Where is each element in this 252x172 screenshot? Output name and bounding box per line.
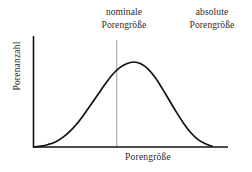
pore-size-distribution-figure: nominale Porengröße absolute Porengröße … [0, 0, 252, 172]
y-axis-title: Porenanzahl [12, 31, 22, 101]
distribution-curve [34, 62, 212, 147]
x-axis-title: Porengröße [100, 152, 196, 162]
plot-area [0, 0, 252, 172]
